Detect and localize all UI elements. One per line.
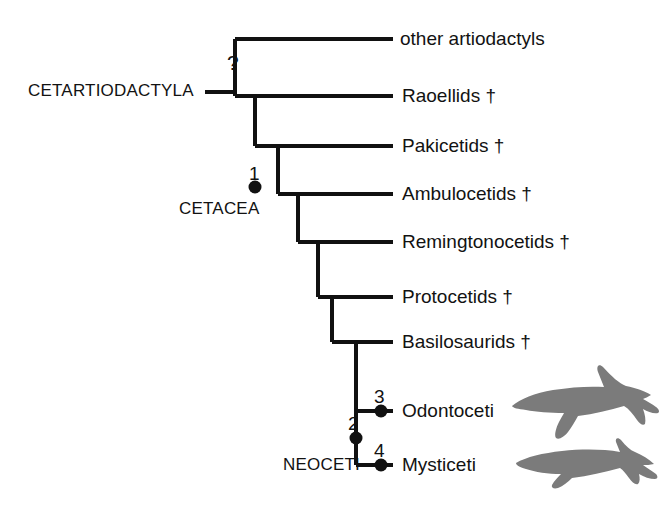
- tip-label-protocetids: Protocetids †: [402, 287, 513, 306]
- tip-label-remingtonocetids: Remingtonocetids †: [402, 232, 570, 251]
- clade-label-neoceti: NEOCETI: [283, 456, 360, 473]
- node-2-number: 2: [348, 414, 359, 433]
- node-markers: [249, 181, 388, 472]
- tip-label-raoellids: Raoellids †: [402, 86, 496, 105]
- tip-label-odontoceti: Odontoceti: [402, 401, 494, 420]
- node-3-number: 3: [374, 387, 385, 406]
- node-1-number: 1: [249, 164, 260, 183]
- killer-whale-silhouette: [512, 365, 659, 438]
- node-4-number: 4: [374, 441, 385, 460]
- tip-label-ambulocetids: Ambulocetids †: [402, 184, 532, 203]
- whale-silhouettes: [512, 365, 659, 488]
- tip-label-other-artiodactyls: other artiodactyls: [400, 29, 545, 48]
- tip-label-mysticeti: Mysticeti: [402, 455, 476, 474]
- tree-branches: [205, 39, 393, 465]
- cladogram-canvas: [0, 0, 670, 509]
- uncertainty-question-mark: ?: [227, 52, 239, 73]
- phylogenetic-tree-figure: other artiodactylsRaoellids †Pakicetids …: [0, 0, 670, 509]
- baleen-whale-silhouette: [516, 438, 657, 488]
- tip-label-basilosaurids: Basilosaurids †: [402, 332, 531, 351]
- clade-label-cetartiodactyla: CETARTIODACTYLA: [28, 82, 194, 99]
- clade-label-cetacea: CETACEA: [179, 200, 259, 217]
- tip-label-pakicetids: Pakicetids †: [402, 136, 504, 155]
